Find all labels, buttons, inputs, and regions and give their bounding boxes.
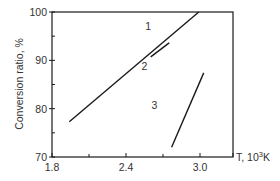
x-axis-label: T, 103K (236, 150, 270, 163)
x-tick-label: 2.4 (119, 161, 134, 173)
curve-label-1: 1 (145, 20, 151, 32)
series-line-3 (172, 73, 204, 147)
y-tick-label: 100 (29, 6, 47, 18)
curve-label-3: 3 (151, 99, 157, 111)
y-tick-label: 90 (35, 54, 47, 66)
axis-ticks: 1.82.43.0708090100 (29, 6, 233, 173)
chart: 1.82.43.0708090100 123 Conversion ratio,… (0, 0, 280, 181)
plot-frame (52, 12, 233, 157)
y-tick-label: 70 (35, 151, 47, 163)
x-tick-label: 3.0 (193, 161, 208, 173)
series-lines: 123 (69, 12, 203, 147)
plot-border (52, 12, 233, 157)
y-axis-label: Conversion ratio, % (13, 38, 25, 130)
curve-label-2: 2 (142, 60, 148, 72)
series-line-2 (69, 12, 199, 122)
y-tick-label: 80 (35, 103, 47, 115)
